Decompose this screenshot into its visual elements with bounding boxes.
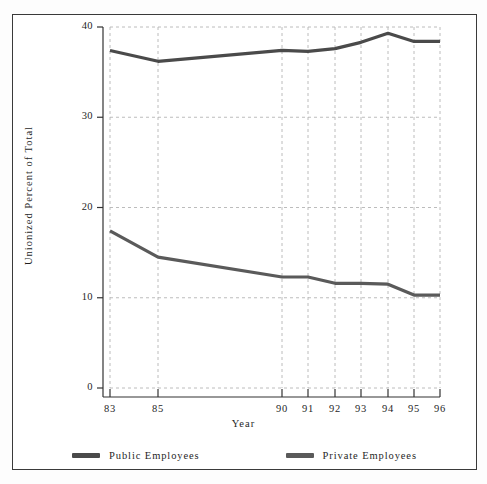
x-axis-title: Year	[0, 418, 487, 429]
legend-swatch-icon	[72, 453, 100, 458]
series-line-private-employees	[110, 231, 440, 295]
legend-label: Public Employees	[109, 450, 200, 461]
series-line-public-employees	[110, 33, 440, 61]
x-tick-label: 93	[346, 403, 376, 414]
y-tick-label: 0	[63, 381, 93, 392]
legend-item[interactable]: Private Employees	[286, 450, 417, 461]
y-tick-label: 30	[63, 110, 93, 121]
x-tick-label: 83	[95, 403, 125, 414]
y-tick-label: 20	[63, 201, 93, 212]
chart-legend: Public EmployeesPrivate Employees	[12, 450, 477, 461]
x-tick-label: 96	[425, 403, 455, 414]
y-axis-title: Unionized Percent of Total	[23, 106, 34, 286]
x-tick-label: 85	[143, 403, 173, 414]
y-tick-label: 40	[63, 20, 93, 31]
y-tick-label: 10	[63, 291, 93, 302]
x-tick-label: 91	[293, 403, 323, 414]
legend-item[interactable]: Public Employees	[72, 450, 200, 461]
legend-swatch-icon	[286, 453, 314, 458]
legend-label: Private Employees	[323, 450, 417, 461]
figure-container: 010203040 838590919293949596 Unionized P…	[0, 0, 487, 484]
